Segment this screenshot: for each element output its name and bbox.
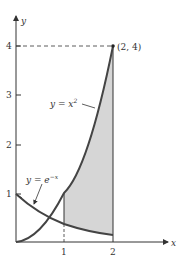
exponential-label: y = e−x (25, 173, 59, 185)
y-tick-4: 4 (6, 41, 12, 51)
point-label: (2, 4) (117, 42, 141, 52)
x-axis-label: x (171, 238, 176, 248)
x-tick-1: 1 (61, 247, 67, 257)
y-axis-label: y (20, 16, 27, 26)
shaded-region (64, 46, 113, 235)
area-between-curves-diagram: y x 4 3 2 1 1 2 (2, 4) y = x2 y = e−x (0, 0, 182, 267)
parabola-label-leader (82, 104, 95, 108)
parabola-label: y = x2 (49, 97, 77, 109)
y-tick-1: 1 (6, 189, 12, 199)
y-tick-2: 2 (6, 140, 12, 150)
point-2-4 (111, 44, 115, 48)
y-tick-3: 3 (6, 90, 12, 100)
x-tick-2: 2 (110, 247, 116, 257)
exp-label-leader (34, 184, 42, 204)
